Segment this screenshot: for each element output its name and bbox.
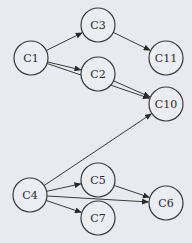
node-label: C10 (155, 98, 177, 111)
node-c6: C6 (149, 186, 183, 220)
node-c1: C1 (14, 41, 48, 75)
node-c2: C2 (81, 57, 115, 91)
node-label: C7 (90, 212, 105, 225)
nodes-layer: C1C3C11C2C10C4C5C6C7 (13, 8, 183, 235)
node-c5: C5 (81, 163, 115, 197)
node-label: C5 (90, 174, 105, 187)
edge-c3-to-c11 (113, 32, 150, 50)
dependency-graph: C1C3C11C2C10C4C5C6C7 (0, 0, 192, 243)
node-c10: C10 (149, 87, 183, 121)
edge-c1-to-c2 (48, 62, 81, 70)
node-c11: C11 (149, 41, 183, 75)
node-c3: C3 (81, 8, 115, 42)
node-label: C11 (155, 52, 177, 65)
edge-c2-to-c10 (114, 81, 150, 97)
edge-c1-to-c3 (46, 33, 82, 51)
node-label: C3 (90, 19, 105, 32)
edge-c4-to-c7 (46, 200, 81, 212)
edge-c4-to-c5 (47, 184, 81, 192)
edge-c5-to-c6 (114, 185, 149, 197)
node-label: C4 (22, 189, 37, 202)
node-c7: C7 (81, 201, 115, 235)
node-label: C6 (158, 197, 173, 210)
node-c4: C4 (13, 178, 47, 212)
node-label: C2 (90, 68, 105, 81)
node-label: C1 (23, 52, 38, 65)
